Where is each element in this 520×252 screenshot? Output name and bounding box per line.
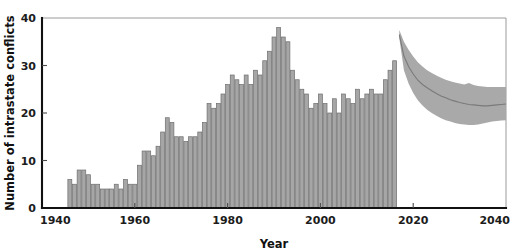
bar [300,89,304,208]
bar [346,99,350,208]
bar [342,94,346,208]
bar [216,104,220,209]
x-axis-tick-labels: 194019601980200020202040 [40,214,510,227]
bar [198,132,202,208]
bar [379,94,383,208]
bar [369,89,373,208]
bar [393,61,397,208]
bar [202,123,206,209]
bar [179,137,183,208]
bar [189,137,193,208]
bar [212,108,216,208]
bar [235,80,239,208]
bar [105,189,109,208]
chart-plot-area: 010203040 194019601980200020202040 Numbe… [0,0,520,252]
bar [100,189,104,208]
bar [328,113,332,208]
bar [230,75,234,208]
x-tick-label: 1980 [212,214,243,227]
bar [253,70,257,208]
bar [170,123,174,209]
bar [137,165,141,208]
bar [82,170,86,208]
bar [128,184,132,208]
chart-figure: 010203040 194019601980200020202040 Numbe… [0,0,520,252]
bar [151,156,155,208]
bar [365,94,369,208]
y-axis-tick-labels: 010203040 [21,12,37,215]
bar [272,37,276,208]
bar [295,80,299,208]
bar [110,189,114,208]
projection-fan-group [399,30,506,125]
bar [286,42,290,208]
bar [184,142,188,209]
bar [86,175,90,208]
x-tick-label: 1960 [119,214,150,227]
bar [332,99,336,208]
bar [388,70,392,208]
y-tick-label: 40 [21,12,37,25]
x-tick-label: 2020 [398,214,429,227]
bar [73,184,77,208]
bar [258,75,262,208]
bar [161,132,165,208]
y-tick-label: 0 [28,202,36,215]
bar-series-group [68,28,397,209]
x-tick-label: 1940 [40,214,71,227]
bar [119,189,123,208]
bar [277,28,281,209]
bar [175,137,179,208]
bar [147,151,151,208]
bar [351,104,355,209]
bar [356,89,360,208]
bar [240,85,244,209]
bar [244,75,248,208]
x-axis-title: Year [259,237,289,251]
bar [360,99,364,208]
y-tick-label: 30 [21,60,37,73]
bar [314,104,318,209]
bar [165,118,169,208]
bar [91,184,95,208]
y-tick-label: 10 [21,155,37,168]
bar [281,37,285,208]
bar [323,104,327,209]
bar [207,104,211,209]
bar [309,108,313,208]
bar [142,151,146,208]
bar [374,94,378,208]
bar [305,94,309,208]
bar [156,146,160,208]
bar [249,85,253,209]
bar [124,180,128,209]
bar [221,94,225,208]
x-tick-label: 2000 [305,214,336,227]
bar [318,94,322,208]
bar [267,51,271,208]
bar [77,170,81,208]
bar [291,70,295,208]
y-tick-label: 20 [21,107,37,120]
bar [193,137,197,208]
x-tick-label: 2040 [479,214,510,227]
bar [68,180,72,209]
bar [263,61,267,208]
bar [383,80,387,208]
bar [96,184,100,208]
bar [114,184,118,208]
bar [226,85,230,209]
y-axis-title: Number of intrastate conflicts [3,15,17,211]
bar [337,113,341,208]
